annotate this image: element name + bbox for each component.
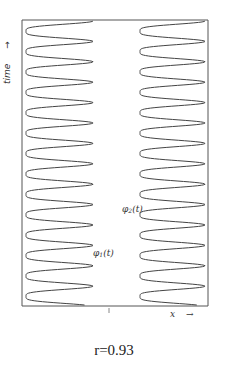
y-axis-arrow-icon: →	[2, 41, 12, 49]
x-axis-arrow-icon: →	[186, 309, 194, 319]
figure-caption: r=0.93	[0, 342, 228, 359]
plot-area	[0, 0, 228, 376]
phi-argument: (t)	[132, 204, 143, 214]
x-axis-label: x →	[170, 309, 194, 319]
x-axis-label-text: x	[170, 309, 175, 319]
phi-argument: (t)	[103, 248, 114, 258]
wave-phi2	[140, 21, 205, 305]
curve-label-phi1: φ1(t)	[93, 248, 114, 258]
oscillation-diagram: time → x → φ1(t) φ2(t) r=0.93	[0, 0, 228, 376]
curve-label-phi2: φ2(t)	[122, 204, 143, 214]
y-axis-label-text: time	[2, 64, 12, 84]
y-axis-label: time →	[2, 24, 12, 84]
wave-phi1	[26, 21, 93, 305]
